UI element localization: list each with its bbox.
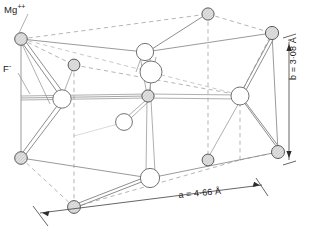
leader-mg-label bbox=[19, 14, 28, 33]
bond-ftr-to-f-b bbox=[246, 40, 273, 90]
bond-backleft-to-f bbox=[64, 71, 72, 92]
leader-f-label bbox=[18, 73, 30, 94]
bond-center-to-bottom-b bbox=[151, 100, 155, 172]
anion-label: F- bbox=[3, 62, 11, 74]
bond-rail-right-lower bbox=[148, 98, 240, 99]
edge-front-top-right-seg bbox=[145, 33, 272, 52]
axis-b-text: b = 3·08 Å bbox=[288, 37, 298, 80]
atom-mg-back-bottom-left bbox=[68, 201, 81, 214]
edge-top-back-to-right bbox=[208, 14, 272, 33]
atom-f-inner-lower bbox=[116, 114, 133, 131]
bond-ftl-to-f-c bbox=[22, 44, 50, 104]
edge-top-front-to-back bbox=[21, 14, 208, 39]
edge-front-top-left-seg bbox=[21, 39, 145, 52]
cation-label: Mg++ bbox=[4, 3, 25, 15]
dim-a-arrowhead-left bbox=[42, 211, 50, 216]
atom-f-upper bbox=[136, 43, 153, 60]
bond-bl-to-f-b bbox=[26, 108, 61, 154]
bond-center-to-bottom-a bbox=[146, 100, 147, 172]
bond-ftl-to-f-b bbox=[26, 42, 62, 91]
label-leader-lines bbox=[18, 14, 30, 94]
cation-label-symbol: Mg bbox=[4, 4, 17, 15]
edge-front-bottom-right-seg bbox=[150, 152, 278, 178]
atom-f-bottom bbox=[140, 168, 159, 187]
edge-front-bottom-left-seg bbox=[21, 158, 150, 178]
bond-center-to-lowleft-a bbox=[127, 101, 145, 117]
bond-rail-right-upper bbox=[148, 94, 240, 95]
atom-mg-center bbox=[142, 90, 154, 102]
atom-mg-back-bottom-center bbox=[202, 154, 214, 166]
dim-b-tick-bottom bbox=[283, 161, 296, 165]
anion-label-charge: - bbox=[9, 62, 11, 69]
atom-f-upper-front bbox=[140, 61, 162, 83]
bond-bl-to-f-a bbox=[23, 106, 57, 152]
bond-f-right-to-back-bottom bbox=[208, 101, 240, 158]
cation-label-charge: ++ bbox=[17, 3, 25, 10]
crystal-structure-diagram bbox=[0, 0, 315, 236]
bond-br-to-f-b bbox=[246, 103, 279, 147]
atom-mg-front-top-right bbox=[265, 26, 278, 39]
bond-ftr-to-f-a bbox=[243, 39, 270, 89]
atom-mg-front-bottom-left bbox=[15, 152, 28, 165]
bond-nearf-left bbox=[74, 124, 118, 136]
bond-lowerf-to-bl-a bbox=[76, 178, 143, 204]
bond-lowerf-to-bl-b bbox=[77, 181, 144, 207]
dim-a-tick-left bbox=[33, 206, 48, 226]
atom-f-left bbox=[53, 90, 71, 108]
bond-br-to-f-a bbox=[243, 101, 276, 146]
atom-f-right bbox=[231, 87, 249, 105]
bond-rail-left-lower bbox=[21, 98, 148, 100]
atom-mg-front-bottom-right bbox=[272, 146, 285, 159]
dim-a-tick-right bbox=[256, 178, 268, 196]
figure-canvas: Mg++ F- a = 4·66 Å b = 3·08 Å bbox=[0, 0, 315, 236]
dim-a-line bbox=[40, 185, 262, 213]
bond-ftl-to-f-a bbox=[23, 44, 58, 93]
edge-mid-horizontal-left bbox=[21, 96, 148, 98]
atom-mg-front-top-left bbox=[15, 33, 28, 46]
anion-atoms bbox=[53, 43, 249, 187]
bond-rail-left-upper bbox=[21, 94, 148, 96]
axis-b-label: b = 3·08 Å bbox=[288, 37, 298, 80]
bond-center-to-lowleft-b bbox=[130, 102, 148, 119]
atom-mg-back-top-left bbox=[68, 59, 80, 71]
dim-b-arrowhead-bottom bbox=[286, 151, 291, 158]
atom-mg-back-top-center bbox=[202, 8, 214, 20]
